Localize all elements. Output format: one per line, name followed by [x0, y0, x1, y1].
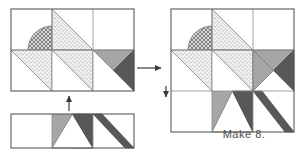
- unit-white-square: [253, 9, 294, 50]
- completed-star-block: [171, 9, 294, 132]
- diagram-root: Make 8.: [0, 0, 296, 156]
- make-count-caption: Make 8.: [196, 128, 292, 140]
- bottom-row-strip: [11, 114, 134, 148]
- strip-cell-white: [11, 114, 52, 148]
- partial-block-two-rows: [11, 9, 134, 91]
- unit-white-square: [93, 9, 134, 50]
- unit-white-square: [171, 91, 212, 132]
